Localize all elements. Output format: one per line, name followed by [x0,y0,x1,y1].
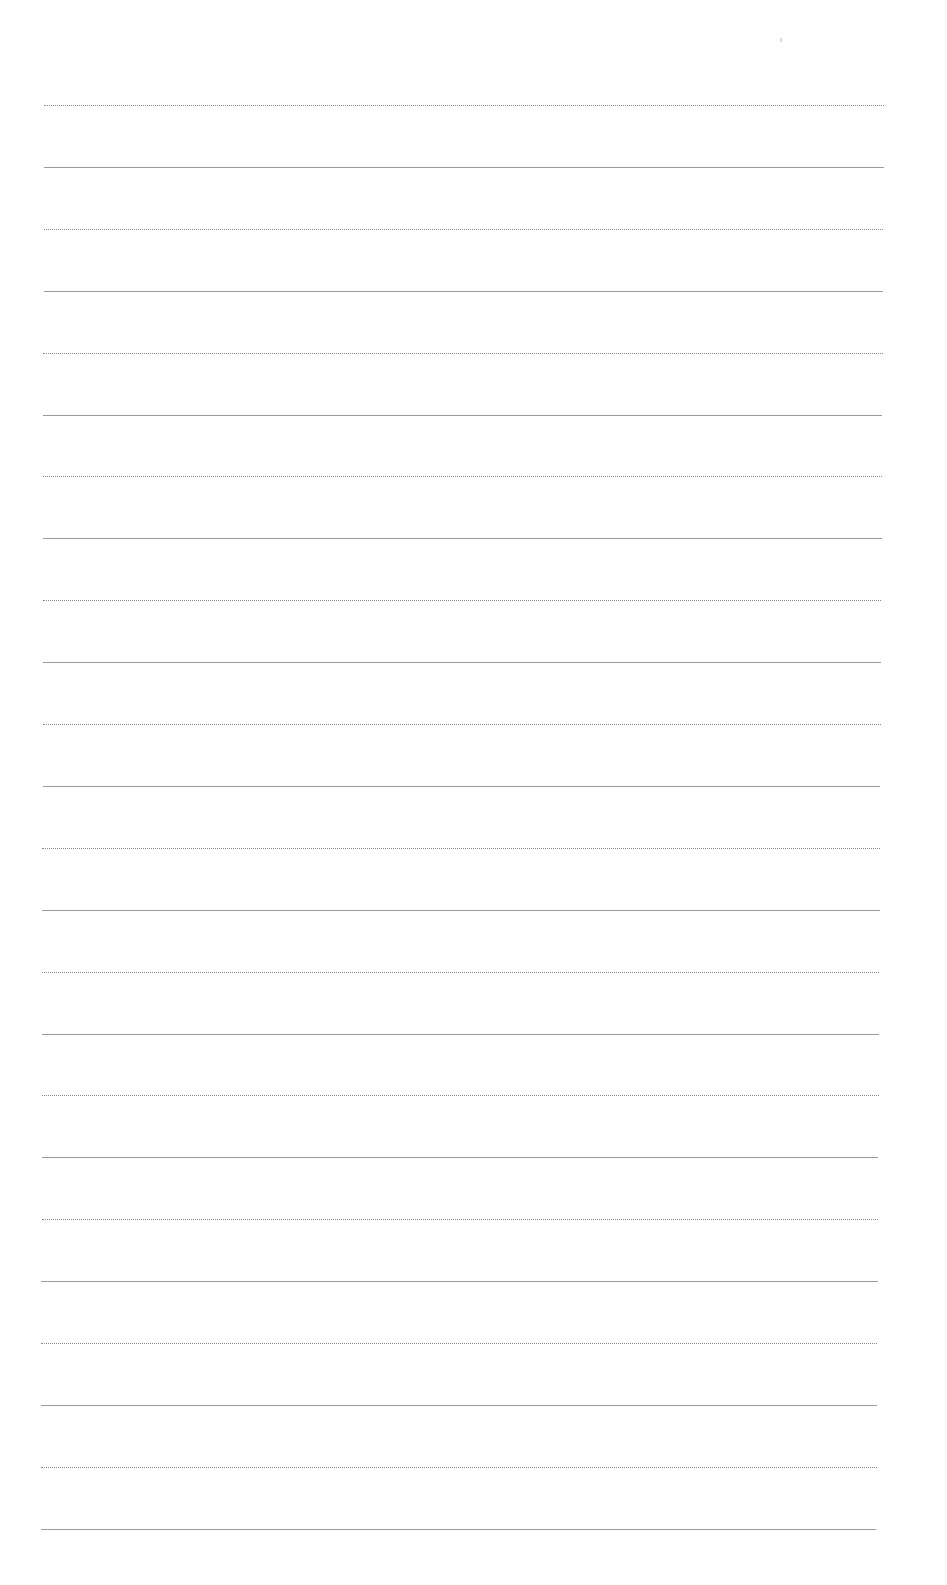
ruled-line [43,724,881,725]
ruled-line [42,1219,878,1220]
ruled-line [44,167,884,168]
ruled-line [41,1529,876,1530]
ruled-line [43,353,882,354]
lined-paper-sheet [0,0,947,1585]
ruled-line [43,476,882,477]
ruled-line [42,910,879,911]
ruled-line [43,786,881,787]
ruled-line [43,538,882,539]
ruled-line [42,1095,879,1096]
ruled-line [42,1157,879,1158]
ruled-line [43,415,882,416]
ruled-line [44,105,884,106]
ruled-line [44,291,883,292]
ruled-line [42,972,879,973]
ruled-line [41,1405,877,1406]
scan-speck [780,38,782,42]
ruled-line [41,1281,877,1282]
ruled-line [41,1343,877,1344]
ruled-line [41,1467,877,1468]
ruled-line [42,848,880,849]
ruled-line [43,600,881,601]
ruled-line [44,229,884,230]
ruled-line [43,662,881,663]
ruled-line [42,1034,879,1035]
